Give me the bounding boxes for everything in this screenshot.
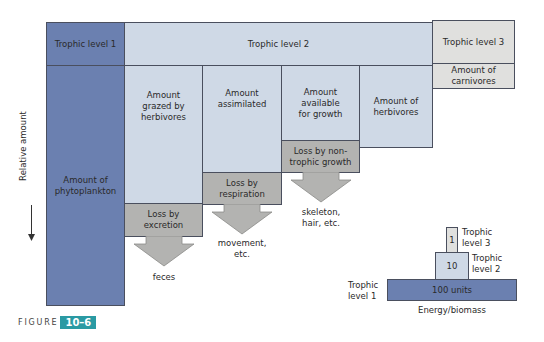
bar-label: Amount of herbivores <box>366 96 426 118</box>
loss-label: Loss by respiration <box>214 178 270 200</box>
header-trophic-level-1: Trophic level 1 <box>46 22 125 66</box>
phytoplankton-bar: Amount of phytoplankton <box>46 65 125 306</box>
loss-excretion-box: Loss by excretion <box>124 203 203 237</box>
loss-respiration-box: Loss by respiration <box>202 172 282 205</box>
pyramid-value: 100 units <box>432 285 472 296</box>
pyramid-label-tl1: Trophic level 1 <box>348 280 386 302</box>
header-label: Trophic level 2 <box>248 39 309 50</box>
pyramid-value: 10 <box>447 261 458 272</box>
bar-label: Amount assimilated <box>214 88 270 110</box>
header-label: Trophic level 3 <box>443 37 504 48</box>
figure-caption: FIGURE 10–6 <box>18 316 96 329</box>
bar-label: Amount of carnivores <box>444 65 504 87</box>
pyramid-label-tl3: Trophic level 3 <box>462 227 498 249</box>
loss-label: Loss by excretion <box>139 209 189 231</box>
output-feces: feces <box>134 272 194 283</box>
pyramid-value: 1 <box>449 235 454 246</box>
bar-label: Amount grazed by herbivores <box>138 90 190 123</box>
arrow-down-icon <box>28 234 35 242</box>
assimilated-bar: Amount assimilated <box>202 65 282 173</box>
bar-label: Amount available for growth <box>296 87 346 120</box>
pyramid-xlabel: Energy/biomass <box>410 305 494 316</box>
available-bar: Amount available for growth <box>281 65 360 141</box>
pyramid-level-1: 100 units <box>387 279 517 301</box>
header-trophic-level-3: Trophic level 3 <box>432 20 515 64</box>
output-skeleton: skeleton, hair, etc. <box>295 207 347 229</box>
carnivores-bar: Amount of carnivores <box>432 63 515 89</box>
figure-number-badge: 10–6 <box>60 316 96 329</box>
down-arrow-icon <box>124 236 204 268</box>
y-axis-line <box>31 205 32 237</box>
y-axis-label: Relative amount <box>17 101 29 191</box>
axis-label-text: Relative amount <box>18 111 28 181</box>
pyramid-level-2: 10 <box>435 252 469 280</box>
down-arrow-icon <box>281 172 361 204</box>
herbivores-bar: Amount of herbivores <box>359 65 433 148</box>
header-trophic-level-2: Trophic level 2 <box>124 22 433 66</box>
bar-label: Amount of phytoplankton <box>54 175 118 197</box>
pyramid-label-tl2: Trophic level 2 <box>472 253 508 275</box>
loss-label: Loss by non-trophic growth <box>289 146 353 168</box>
pyramid-level-3: 1 <box>446 227 458 253</box>
grazed-bar: Amount grazed by herbivores <box>124 65 203 204</box>
header-label: Trophic level 1 <box>55 39 116 50</box>
figure-word: FIGURE <box>18 318 58 327</box>
down-arrow-icon <box>202 204 282 236</box>
output-movement: movement, etc. <box>212 238 272 260</box>
loss-nontrophic-box: Loss by non-trophic growth <box>281 140 360 173</box>
